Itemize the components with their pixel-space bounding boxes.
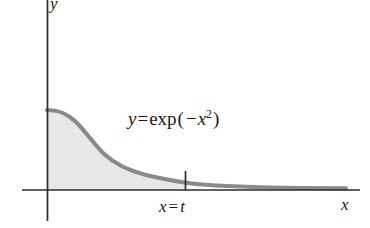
equation-equals: =: [136, 108, 149, 129]
equation-minus-sign: −: [185, 108, 198, 129]
equation-close-paren: ): [212, 108, 220, 129]
boundary-value: t: [180, 197, 185, 216]
curve-equation-label: y=exp(−x2): [128, 109, 220, 128]
boundary-variable: x: [159, 197, 167, 216]
equation-open-paren: (: [177, 108, 185, 129]
axis-label-y: y: [50, 0, 58, 12]
axis-label-x: x: [341, 196, 349, 213]
equation-variable: x: [198, 108, 206, 129]
boundary-equals: =: [167, 197, 181, 216]
equation-function-name: exp: [149, 108, 176, 129]
boundary-label: x=t: [159, 198, 185, 215]
function-plot-figure: y x y=exp(−x2) x=t: [0, 0, 370, 228]
